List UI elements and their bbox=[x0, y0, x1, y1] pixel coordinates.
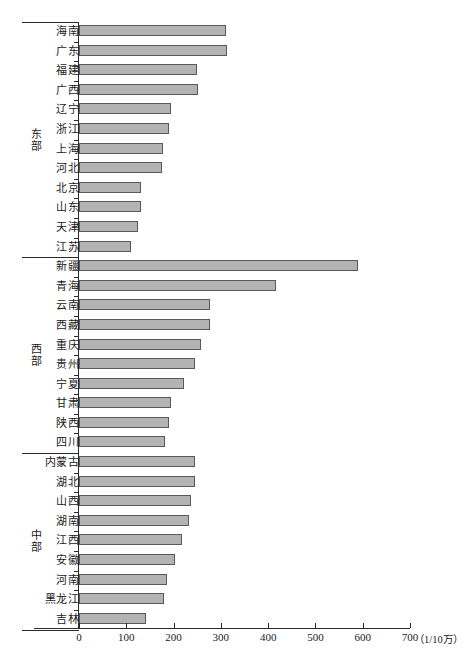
category-tick bbox=[74, 531, 78, 532]
category-tick bbox=[74, 394, 78, 395]
bar-row: 山西 bbox=[0, 492, 467, 512]
category-label: 安徽 bbox=[56, 551, 79, 571]
group-label-1: 西部 bbox=[28, 343, 44, 367]
category-label: 山西 bbox=[56, 492, 79, 512]
bar bbox=[79, 534, 182, 545]
bar-row: 天津 bbox=[0, 218, 467, 238]
category-label: 河南 bbox=[56, 571, 79, 591]
bar bbox=[79, 241, 131, 252]
category-label: 西藏 bbox=[56, 316, 79, 336]
x-tick bbox=[126, 623, 127, 628]
x-tick-label: 0 bbox=[59, 631, 99, 643]
category-tick bbox=[74, 571, 78, 572]
x-tick bbox=[410, 623, 411, 628]
bar bbox=[79, 319, 210, 330]
bar-row: 安徽 bbox=[0, 551, 467, 571]
bar-row: 四川 bbox=[0, 433, 467, 453]
bar-row: 湖北 bbox=[0, 473, 467, 493]
category-tick bbox=[74, 257, 78, 258]
category-tick bbox=[74, 551, 78, 552]
x-tick-label: 600 bbox=[343, 631, 383, 643]
category-label: 新疆 bbox=[56, 257, 79, 277]
bar-row: 广西 bbox=[0, 81, 467, 101]
bar bbox=[79, 123, 169, 134]
bar bbox=[79, 299, 210, 310]
category-tick bbox=[74, 610, 78, 611]
x-tick bbox=[363, 623, 364, 628]
bar-rows: 海南广东福建广西辽宁浙江上海河北北京山东天津江苏新疆青海云南西藏重庆贵州宁夏甘肃… bbox=[0, 22, 467, 629]
category-label: 宁夏 bbox=[56, 375, 79, 395]
bar bbox=[79, 280, 276, 291]
category-tick bbox=[74, 277, 78, 278]
bar bbox=[79, 25, 226, 36]
bar-row: 陕西 bbox=[0, 414, 467, 434]
category-label: 广东 bbox=[56, 42, 79, 62]
plot-area: 海南广东福建广西辽宁浙江上海河北北京山东天津江苏新疆青海云南西藏重庆贵州宁夏甘肃… bbox=[0, 0, 467, 663]
bar-row: 山东 bbox=[0, 198, 467, 218]
bar-row: 湖南 bbox=[0, 512, 467, 532]
category-tick bbox=[74, 22, 78, 23]
bar-row: 广东 bbox=[0, 42, 467, 62]
category-label: 上海 bbox=[56, 140, 79, 160]
x-tick-label: 300 bbox=[201, 631, 241, 643]
category-label: 海南 bbox=[56, 22, 79, 42]
category-tick bbox=[74, 453, 78, 454]
bar-row: 贵州 bbox=[0, 355, 467, 375]
bar-row: 江西 bbox=[0, 531, 467, 551]
category-tick bbox=[74, 433, 78, 434]
category-tick bbox=[74, 81, 78, 82]
x-tick bbox=[174, 623, 175, 628]
category-label: 浙江 bbox=[56, 120, 79, 140]
bar-row: 西藏 bbox=[0, 316, 467, 336]
category-label: 山东 bbox=[56, 198, 79, 218]
x-tick bbox=[221, 623, 222, 628]
category-tick bbox=[74, 512, 78, 513]
category-tick bbox=[74, 198, 78, 199]
bar-row: 河北 bbox=[0, 159, 467, 179]
category-label: 天津 bbox=[56, 218, 79, 238]
bar-row: 重庆 bbox=[0, 336, 467, 356]
bar-chart: 海南广东福建广西辽宁浙江上海河北北京山东天津江苏新疆青海云南西藏重庆贵州宁夏甘肃… bbox=[0, 0, 467, 663]
bar-row: 吉林 bbox=[0, 610, 467, 630]
bar-row: 海南 bbox=[0, 22, 467, 42]
category-label: 吉林 bbox=[56, 610, 79, 630]
category-tick bbox=[74, 100, 78, 101]
category-tick bbox=[74, 375, 78, 376]
bar-row: 浙江 bbox=[0, 120, 467, 140]
bar bbox=[79, 397, 171, 408]
category-tick bbox=[74, 61, 78, 62]
category-label: 陕西 bbox=[56, 414, 79, 434]
category-label: 江西 bbox=[56, 531, 79, 551]
bar bbox=[79, 339, 201, 350]
category-label: 内蒙古 bbox=[45, 453, 80, 473]
category-label: 湖北 bbox=[56, 473, 79, 493]
bar-row: 甘肃 bbox=[0, 394, 467, 414]
category-label: 辽宁 bbox=[56, 100, 79, 120]
category-tick bbox=[74, 492, 78, 493]
bar-row: 辽宁 bbox=[0, 100, 467, 120]
category-label: 河北 bbox=[56, 159, 79, 179]
category-tick bbox=[74, 336, 78, 337]
category-tick bbox=[74, 355, 78, 356]
bar bbox=[79, 476, 195, 487]
group-label-0: 东部 bbox=[28, 128, 44, 152]
bar bbox=[79, 260, 358, 271]
bar bbox=[79, 436, 165, 447]
bar bbox=[79, 84, 198, 95]
bar-row: 青海 bbox=[0, 277, 467, 297]
bar-row: 宁夏 bbox=[0, 375, 467, 395]
category-tick bbox=[74, 179, 78, 180]
category-tick bbox=[74, 218, 78, 219]
bar bbox=[79, 456, 195, 467]
category-label: 甘肃 bbox=[56, 394, 79, 414]
bar bbox=[79, 613, 146, 624]
category-label: 四川 bbox=[56, 433, 79, 453]
category-tick bbox=[74, 238, 78, 239]
bar-row: 新疆 bbox=[0, 257, 467, 277]
bar bbox=[79, 593, 164, 604]
category-tick bbox=[74, 296, 78, 297]
bar-row: 江苏 bbox=[0, 238, 467, 258]
bar-row: 福建 bbox=[0, 61, 467, 81]
bar bbox=[79, 201, 141, 212]
bar bbox=[79, 554, 175, 565]
